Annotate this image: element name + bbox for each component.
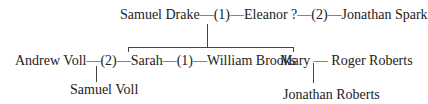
person-roger-roberts: Roger Roberts: [331, 53, 412, 68]
descent-line: [207, 24, 208, 47]
person-eleanor: Eleanor ?: [244, 7, 297, 22]
descent-line-voll: [96, 66, 97, 82]
marriage-connector-1: —(1)—: [163, 53, 207, 68]
marriage-connector-2: —(2)—: [86, 53, 130, 68]
row-2-left: Andrew Voll—(2)—Sarah—(1)—William Brooks: [15, 54, 296, 68]
marriage-connector-2: —(2)—: [297, 7, 341, 22]
person-samuel-drake: Samuel Drake: [120, 7, 200, 22]
person-andrew-voll: Andrew Voll: [15, 53, 86, 68]
drop-line-mary: [293, 47, 294, 52]
row-2-right: Mary — Roger Roberts: [280, 54, 413, 68]
marriage-connector-1: —(1)—: [200, 7, 244, 22]
person-jonathan-spark: Jonathan Spark: [342, 7, 428, 22]
drop-line-sarah: [128, 47, 129, 52]
person-mary: Mary: [280, 53, 310, 68]
person-samuel-voll: Samuel Voll: [70, 83, 138, 97]
descent-line-roberts: [313, 63, 314, 83]
row-1: Samuel Drake—(1)—Eleanor ?—(2)—Jonathan …: [120, 8, 428, 22]
sibling-line: [128, 47, 294, 48]
person-sarah: Sarah: [131, 53, 163, 68]
person-jonathan-roberts: Jonathan Roberts: [283, 88, 380, 102]
